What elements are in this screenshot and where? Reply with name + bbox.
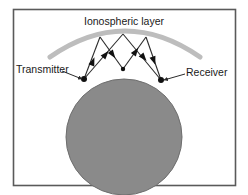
receiver-label: Receiver bbox=[186, 66, 228, 78]
ground-bounce-node bbox=[121, 67, 125, 71]
earth-sphere bbox=[66, 79, 182, 195]
ionosphere-label: Ionospheric layer bbox=[84, 15, 164, 27]
receiver-node bbox=[158, 77, 164, 83]
transmitter-label: Transmitter bbox=[16, 63, 69, 75]
ionospheric-propagation-figure: Ionospheric layer Transmitter Receiver bbox=[0, 0, 248, 195]
diagram-canvas: Ionospheric layer Transmitter Receiver bbox=[0, 0, 248, 195]
